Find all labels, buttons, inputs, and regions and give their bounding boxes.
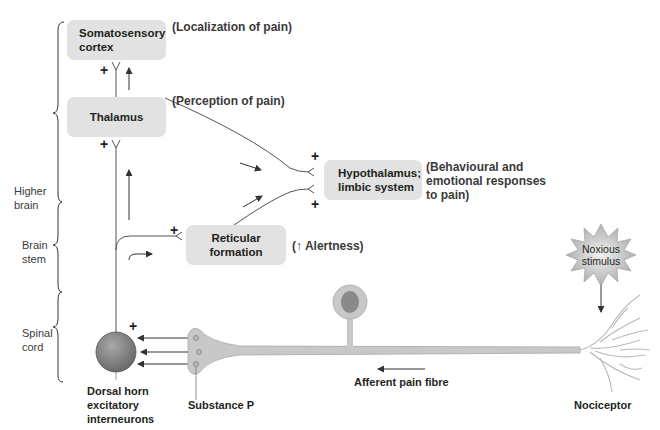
caption-line: excitatory bbox=[87, 398, 154, 412]
caption-nociceptor: Nociceptor bbox=[574, 398, 631, 412]
box-label: limbic system bbox=[338, 180, 421, 194]
region-label-line: Higher bbox=[14, 184, 46, 198]
box-label: Thalamus bbox=[90, 110, 144, 124]
region-higher-brain: Higher brain bbox=[14, 184, 46, 212]
region-braces bbox=[53, 22, 64, 382]
annotation-perception: (Perception of pain) bbox=[172, 94, 285, 108]
somatosensory-cortex-box: Somatosensory cortex bbox=[67, 20, 166, 60]
hypothalamus-limbic-box: Hypothalamus; limbic system bbox=[324, 160, 422, 200]
caption-line: interneurons bbox=[87, 412, 154, 426]
box-label: Hypothalamus; bbox=[338, 166, 421, 180]
caption-substance-p: Substance P bbox=[188, 398, 254, 412]
region-label-line: stem bbox=[22, 252, 48, 266]
caption-line: stimulus bbox=[576, 255, 626, 267]
caption-noxious-stimulus: Noxious stimulus bbox=[576, 243, 626, 267]
excitatory-sign: + bbox=[170, 223, 178, 237]
annotation-alertness: (↑ Alertness) bbox=[292, 239, 364, 253]
caption-dorsal-horn: Dorsal horn excitatory interneurons bbox=[87, 384, 154, 426]
excitatory-sign: + bbox=[311, 149, 319, 163]
region-label-line: Brain bbox=[22, 238, 48, 252]
reticular-formation-box: Reticular formation bbox=[186, 225, 286, 265]
excitatory-sign: + bbox=[100, 137, 108, 151]
box-label: formation bbox=[209, 245, 262, 259]
box-label: Somatosensory bbox=[79, 26, 165, 40]
thalamus-box: Thalamus bbox=[67, 97, 166, 137]
box-label: cortex bbox=[79, 40, 165, 54]
annotation-line: emotional responses bbox=[426, 174, 546, 188]
region-spinal-cord: Spinal cord bbox=[22, 326, 53, 354]
region-label-line: Spinal bbox=[22, 326, 53, 340]
region-label-line: cord bbox=[22, 340, 53, 354]
excitatory-sign: + bbox=[311, 197, 319, 211]
region-label-line: brain bbox=[14, 198, 46, 212]
caption-afferent-fibre: Afferent pain fibre bbox=[354, 375, 449, 389]
caption-line: Dorsal horn bbox=[87, 384, 154, 398]
pain-pathway-wiring bbox=[0, 0, 660, 430]
dorsal-horn-soma bbox=[96, 332, 136, 372]
annotation-line: to pain) bbox=[426, 188, 546, 202]
annotation-behavioural: (Behavioural and emotional responses to … bbox=[426, 160, 546, 202]
annotation-line: (Behavioural and bbox=[426, 160, 546, 174]
nociceptor-endings bbox=[580, 295, 650, 392]
region-brain-stem: Brain stem bbox=[22, 238, 48, 266]
excitatory-sign: + bbox=[100, 63, 108, 77]
excitatory-sign: + bbox=[129, 319, 137, 333]
box-label: Reticular bbox=[209, 231, 262, 245]
caption-line: Noxious bbox=[576, 243, 626, 255]
annotation-localization: (Localization of pain) bbox=[172, 20, 292, 34]
